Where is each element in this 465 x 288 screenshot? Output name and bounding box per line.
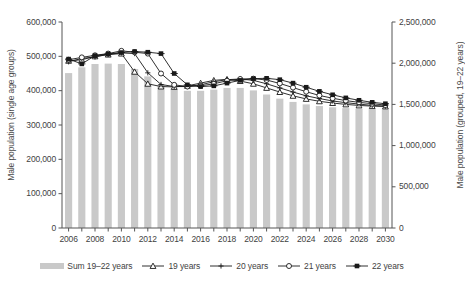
legend-marker-open-triangle-icon [141,261,165,271]
bar [289,102,296,228]
y-axis-right-title: Male population (grouped, 19–22 years) [455,30,465,200]
legend-bar-swatch [40,263,64,269]
legend-label: 19 years [168,261,200,271]
marker-circle [304,89,309,94]
bar [157,85,164,228]
bar [171,89,178,228]
bar [131,69,138,228]
marker-circle [317,93,322,98]
legend-label: 21 years [304,261,336,271]
marker-circle [291,85,296,90]
marker-circle [287,264,292,269]
marker-circle [79,55,84,60]
bar [91,64,98,228]
legend-item[interactable]: Sum 19–22 years [40,261,132,271]
legend-item[interactable]: 20 years [209,261,268,271]
bar [184,91,191,228]
bar [316,106,323,228]
legend-item[interactable]: 19 years [141,261,200,271]
bar [78,67,85,228]
bar [223,88,230,228]
bar [237,88,244,228]
bar [369,109,376,228]
legend-item[interactable]: 21 years [277,261,336,271]
bar [65,73,72,228]
legend-marker-plus-icon [209,261,233,271]
legend-marker-open-circle-icon [277,261,301,271]
legend-marker-filled-square-icon [345,261,369,271]
legend-label: 22 years [372,261,404,271]
bar [342,108,349,228]
legend-label: Sum 19–22 years [67,261,132,271]
bar [263,95,270,228]
bar-series [65,64,389,228]
legend-label: 20 years [236,261,268,271]
chart-legend: Sum 19–22 years19 years20 years21 years2… [0,258,453,274]
marker-circle [159,71,164,76]
bar [144,76,151,228]
bar [210,90,217,228]
bar [197,91,204,228]
bar [382,109,389,228]
bar [355,109,362,228]
bar [105,64,112,228]
marker-circle [172,82,177,87]
bar [118,64,125,228]
bar [329,107,336,228]
bar [250,90,257,228]
legend-item[interactable]: 22 years [345,261,404,271]
bar [276,99,283,228]
bar [303,104,310,228]
